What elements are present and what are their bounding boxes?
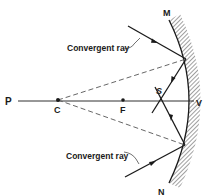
- label-P: P: [5, 96, 12, 107]
- label-N: N: [158, 187, 165, 196]
- label-V: V: [196, 98, 202, 108]
- label-S: S: [156, 86, 162, 96]
- lower-incident-arrow: [149, 161, 156, 166]
- point-F: [121, 98, 125, 102]
- label-M: M: [163, 8, 171, 18]
- upper-incident-arrow: [151, 39, 158, 44]
- label-F: F: [120, 105, 126, 115]
- label-C: C: [54, 105, 61, 115]
- dashed-line-upper: [58, 59, 186, 100]
- lower-ray-label: Convergent ray: [66, 151, 129, 161]
- upper-ray-label: Convergent ray: [67, 43, 130, 53]
- ray-diagram: P C F V S M N Convergent ray Convergent …: [0, 0, 212, 196]
- point-C: [56, 98, 60, 102]
